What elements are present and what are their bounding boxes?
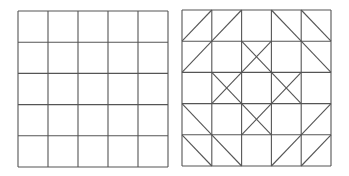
- diagonal-line-falling: [182, 135, 212, 166]
- diagonal-pattern-grid: [182, 10, 331, 166]
- diagonal-line-falling: [301, 10, 331, 41]
- diagonal-line-falling: [182, 104, 212, 135]
- diagonal-line-rising: [271, 135, 301, 166]
- diagonal-line-falling: [271, 10, 301, 41]
- diagonal-line-falling: [301, 41, 331, 72]
- diagonal-line-rising: [212, 10, 242, 41]
- diagonal-line-rising: [182, 10, 212, 41]
- diagonal-line-rising: [301, 104, 331, 135]
- diagonal-line-falling: [212, 135, 242, 166]
- grid-diagram: [0, 0, 349, 176]
- diagonal-line-rising: [301, 135, 331, 166]
- plain-grid: [18, 11, 168, 167]
- diagonal-line-rising: [182, 41, 212, 72]
